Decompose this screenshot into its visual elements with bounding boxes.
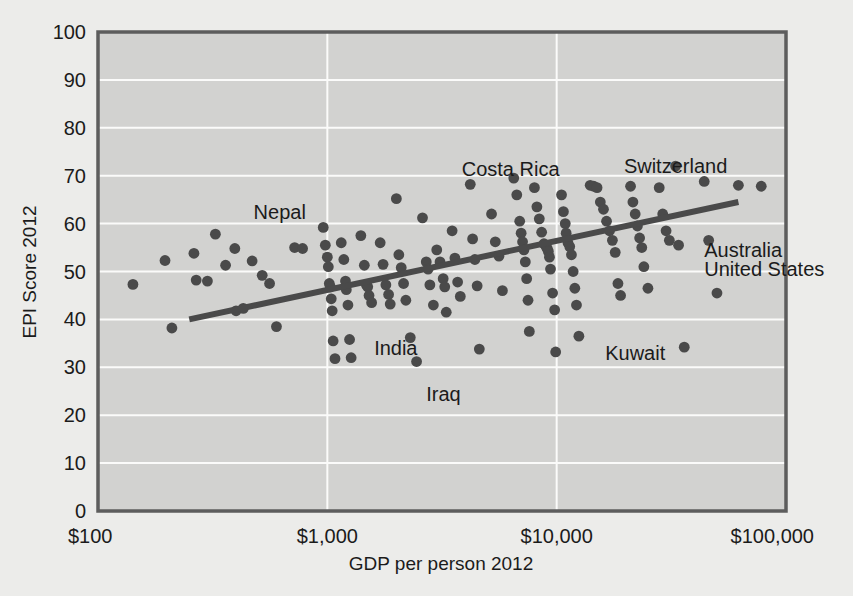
data-point: [568, 266, 579, 277]
annotation-label: United States: [704, 258, 824, 280]
data-point: [560, 218, 571, 229]
annotation-label: Kuwait: [605, 342, 665, 364]
data-point: [428, 300, 439, 311]
data-point: [202, 276, 213, 287]
data-point: [346, 352, 357, 363]
data-point: [257, 270, 268, 281]
data-point: [400, 295, 411, 306]
annotation-label: Costa Rica: [462, 158, 561, 180]
data-point: [511, 189, 522, 200]
data-point: [601, 216, 612, 227]
y-tick-label: 60: [64, 213, 86, 235]
data-point: [630, 209, 641, 220]
data-point: [343, 300, 354, 311]
data-point: [327, 305, 338, 316]
data-point: [128, 279, 139, 290]
data-point: [534, 213, 545, 224]
data-point: [549, 304, 560, 315]
data-point: [167, 323, 178, 334]
data-point: [441, 307, 452, 318]
data-point: [524, 326, 535, 337]
data-point: [220, 260, 231, 271]
data-point: [638, 261, 649, 272]
y-tick-label: 100: [53, 21, 86, 43]
data-point: [529, 182, 540, 193]
data-point: [486, 209, 497, 220]
data-point: [699, 176, 710, 187]
y-tick-label: 10: [64, 452, 86, 474]
data-point: [634, 233, 645, 244]
data-point: [417, 212, 428, 223]
data-point: [393, 249, 404, 260]
data-point: [318, 222, 329, 233]
data-point: [643, 283, 654, 294]
data-point: [628, 197, 639, 208]
x-tick-label: $10,000: [521, 525, 593, 547]
data-point: [472, 280, 483, 291]
data-point: [189, 248, 200, 259]
data-point: [497, 285, 508, 296]
data-point: [439, 281, 450, 292]
data-point: [556, 189, 567, 200]
data-point: [160, 255, 171, 266]
y-tick-label: 80: [64, 117, 86, 139]
data-point: [569, 283, 580, 294]
data-point: [536, 227, 547, 238]
y-tick-label: 40: [64, 308, 86, 330]
data-point: [592, 182, 603, 193]
data-point: [514, 216, 525, 227]
scatter-plot: 0102030405060708090100 $100$1,000$10,000…: [0, 0, 853, 596]
data-point: [679, 342, 690, 353]
x-tick-label: $100,000: [731, 525, 814, 547]
data-point: [571, 300, 582, 311]
data-point: [326, 293, 337, 304]
data-point: [558, 206, 569, 217]
data-point: [598, 204, 609, 215]
data-point: [229, 243, 240, 254]
data-point: [330, 353, 341, 364]
data-point: [523, 295, 534, 306]
data-point: [661, 225, 672, 236]
y-axis-title: EPI Score 2012: [19, 205, 40, 338]
data-point: [375, 237, 386, 248]
data-point: [210, 229, 221, 240]
data-point: [545, 264, 556, 275]
y-tick-label: 70: [64, 165, 86, 187]
annotation-label: Switzerland: [624, 155, 727, 177]
data-point: [264, 278, 275, 289]
data-point: [550, 347, 561, 358]
data-point: [455, 291, 466, 302]
data-point: [398, 278, 409, 289]
data-point: [366, 297, 377, 308]
data-point: [465, 179, 476, 190]
x-tick-label: $1,000: [297, 525, 358, 547]
data-point: [297, 243, 308, 254]
x-axis-title: GDP per person 2012: [349, 553, 534, 574]
data-point: [355, 230, 366, 241]
data-point: [547, 288, 558, 299]
data-point: [673, 240, 684, 251]
data-point: [247, 256, 258, 267]
data-point: [613, 278, 624, 289]
data-point: [391, 193, 402, 204]
data-point: [712, 288, 723, 299]
data-point: [452, 277, 463, 288]
y-tick-label: 30: [64, 356, 86, 378]
annotation-label: India: [374, 337, 418, 359]
data-point: [664, 235, 675, 246]
data-point: [756, 181, 767, 192]
data-point: [544, 252, 555, 263]
data-point: [322, 252, 333, 263]
data-point: [383, 289, 394, 300]
data-point: [328, 336, 339, 347]
data-point: [467, 234, 478, 245]
data-point: [610, 247, 621, 258]
data-point: [520, 257, 531, 268]
data-point: [323, 261, 334, 272]
data-point: [385, 299, 396, 310]
data-point: [338, 254, 349, 265]
data-point: [320, 240, 331, 251]
data-point: [532, 201, 543, 212]
data-point: [424, 280, 435, 291]
y-tick-label: 20: [64, 404, 86, 426]
